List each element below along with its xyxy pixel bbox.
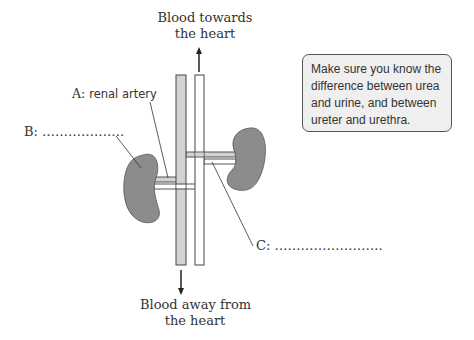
label-c-prefix: C: bbox=[256, 238, 270, 253]
bottom-label-line-1: Blood away from bbox=[140, 297, 250, 313]
vena-cava bbox=[195, 75, 204, 265]
label-b: B: ………………. bbox=[24, 124, 124, 139]
top-label-line-1: Blood towards bbox=[150, 10, 260, 26]
right-renal-vein bbox=[204, 159, 236, 164]
left-kidney bbox=[124, 154, 160, 223]
right-renal-artery bbox=[186, 152, 236, 157]
top-label: Blood towards the heart bbox=[150, 10, 260, 42]
bottom-label: Blood away from the heart bbox=[140, 297, 250, 329]
label-c-blank[interactable]: ……………………. bbox=[274, 238, 382, 253]
top-label-line-2: the heart bbox=[150, 26, 260, 42]
leader-line-b bbox=[116, 136, 141, 168]
label-a: A: renal artery bbox=[72, 86, 157, 101]
label-a-name: renal artery bbox=[89, 87, 157, 101]
kidney-diagram bbox=[0, 0, 474, 340]
label-b-blank[interactable]: ………………. bbox=[42, 124, 124, 139]
aorta bbox=[176, 75, 186, 265]
label-b-prefix: B: bbox=[24, 124, 38, 139]
arrow-up-icon bbox=[196, 47, 202, 72]
tip-note-text: Make sure you know the difference betwee… bbox=[311, 62, 441, 127]
label-c: C: ……………………. bbox=[256, 238, 383, 253]
arrow-down-icon bbox=[178, 270, 184, 295]
label-a-prefix: A: bbox=[72, 86, 85, 101]
tip-note-box: Make sure you know the difference betwee… bbox=[302, 54, 452, 132]
bottom-label-line-2: the heart bbox=[140, 313, 250, 329]
